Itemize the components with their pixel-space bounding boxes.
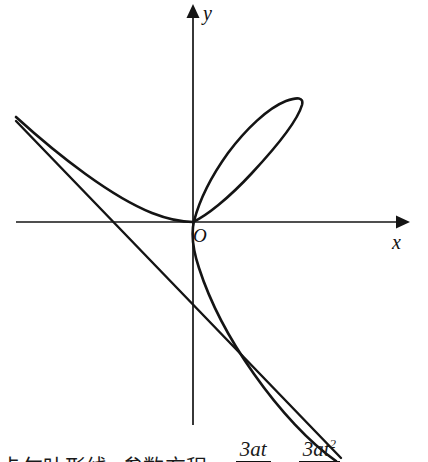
caption-y-fraction: 3at2 1+t — [299, 437, 340, 462]
figure-caption: 卡尔叶形线 参数方程 x = 3at 1+t y = 3at2 1+t — [0, 431, 428, 462]
origin-label: O — [193, 226, 207, 245]
x-axis-arrowhead — [396, 216, 410, 229]
y-axis-label: y — [203, 3, 212, 23]
figure-page: y x O 卡尔叶形线 参数方程 x = 3at 1+t y = 3at2 1+… — [0, 0, 428, 462]
folium-curve — [16, 98, 336, 461]
asymptote-line — [16, 121, 341, 458]
y-axis-arrowhead — [187, 4, 200, 18]
y-axis — [187, 4, 200, 425]
caption-row: 卡尔叶形线 参数方程 x = 3at 1+t y = 3at2 1+t — [0, 431, 428, 462]
caption-y-numerator-exponent: 2 — [330, 436, 337, 451]
caption-equation-intro: 参数方程 — [122, 456, 208, 462]
x-axis — [16, 216, 410, 229]
caption-y-equals: = — [287, 456, 299, 462]
caption-curve-name: 卡尔叶形线 — [0, 456, 108, 462]
caption-x-numerator: 3at — [236, 439, 271, 461]
caption-y-variable: y — [278, 456, 287, 462]
caption-x-equals: = — [224, 456, 236, 462]
x-axis-label: x — [392, 232, 401, 252]
caption-y-numerator: 3at2 — [299, 437, 340, 461]
caption-x-variable: x — [215, 456, 224, 462]
folium-figure — [0, 0, 428, 462]
caption-x-fraction: 3at 1+t — [236, 439, 271, 462]
caption-y-numerator-base: 3at — [303, 437, 330, 461]
